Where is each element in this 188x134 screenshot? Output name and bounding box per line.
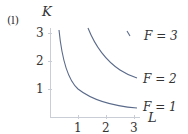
curve-f1 [59, 30, 137, 108]
curve-f3 [127, 31, 130, 36]
plot-area [0, 0, 188, 134]
